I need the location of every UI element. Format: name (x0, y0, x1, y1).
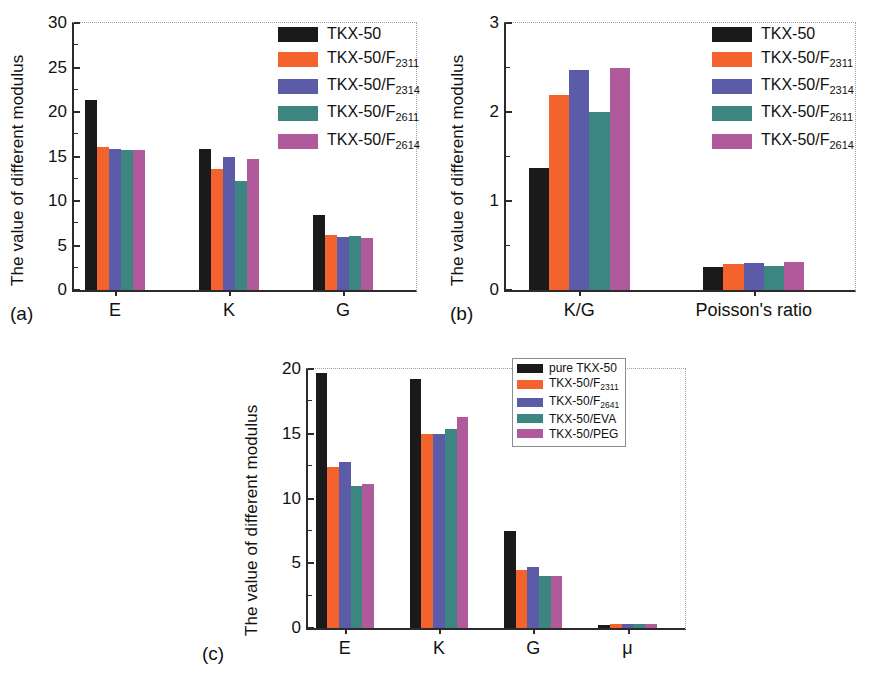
legend-item: TKX-50/F2614 (278, 132, 420, 151)
legend-item: TKX-50/EVA (517, 413, 619, 425)
legend-label: pure TKX-50 (549, 362, 617, 374)
legend-swatch (517, 364, 543, 373)
x-tick-label: K (433, 638, 445, 659)
bar (327, 467, 339, 628)
y-tick-label: 15 (282, 424, 308, 444)
bar (703, 267, 723, 290)
legend-swatch (712, 79, 752, 94)
legend-item: TKX-50/F2311 (712, 50, 854, 69)
legend-label: TKX-50/F2314 (761, 77, 854, 96)
y-tick-label: 0 (292, 618, 308, 638)
bar (569, 70, 589, 290)
bar (223, 157, 235, 290)
y-tick-label: 30 (48, 13, 74, 33)
bar (504, 531, 516, 628)
y-tick-mark (74, 156, 80, 158)
legend-item: TKX-50/F2314 (278, 77, 420, 96)
y-tick-label: 2 (490, 102, 506, 122)
panel-c: The value of different modulus (c) 05101… (150, 340, 730, 692)
y-tick-label: 10 (48, 191, 74, 211)
y-axis-label-a: The value of different modulus (8, 16, 28, 286)
bar (97, 147, 109, 290)
y-tick-mark-minor (308, 465, 312, 466)
x-tick-mark (754, 290, 756, 296)
legend-swatch (517, 429, 543, 438)
bar (362, 484, 374, 628)
bar (316, 373, 328, 628)
legend-label: TKX-50 (761, 26, 815, 42)
panel-label-c: (c) (202, 643, 224, 665)
x-tick-label: Poisson's ratio (696, 300, 813, 321)
y-tick-mark-minor (74, 267, 78, 268)
y-tick-label: 5 (58, 236, 74, 256)
y-tick-label: 3 (490, 13, 506, 33)
legend-swatch (278, 52, 318, 67)
bar (421, 434, 433, 628)
bar (325, 235, 337, 290)
legend-item: TKX-50 (712, 26, 854, 42)
y-tick-mark (506, 200, 512, 202)
bar (784, 262, 804, 290)
y-tick-mark-minor (74, 133, 78, 134)
bar (633, 624, 645, 628)
x-tick-mark (439, 628, 441, 634)
x-tick-mark (115, 290, 117, 296)
y-tick-mark (506, 289, 512, 291)
panel-a: The value of different modulus (a) 05101… (0, 0, 440, 340)
y-tick-label: 15 (48, 147, 74, 167)
y-tick-mark-minor (308, 530, 312, 531)
bar (351, 486, 363, 628)
legend-swatch (712, 27, 752, 42)
legend-c: pure TKX-50TKX-50/F2311TKX-50/F2641TKX-5… (512, 358, 626, 447)
legend-label: TKX-50/F2611 (761, 104, 853, 123)
bar (339, 462, 351, 628)
bar (349, 236, 361, 290)
x-tick-mark (579, 290, 581, 296)
bar (744, 263, 764, 290)
legend-swatch (278, 134, 318, 149)
legend-swatch (712, 134, 752, 149)
y-tick-mark (74, 67, 80, 69)
y-tick-mark-minor (308, 595, 312, 596)
x-tick-label: E (109, 300, 121, 321)
legend-label: TKX-50/F2311 (327, 50, 419, 69)
legend-label: TKX-50/F2314 (327, 77, 420, 96)
bar (313, 215, 325, 290)
legend-a: TKX-50TKX-50/F2311TKX-50/F2314TKX-50/F26… (278, 26, 420, 159)
x-tick-label: μ (622, 638, 632, 659)
y-axis-label-b: The value of different modulus (448, 16, 468, 286)
legend-label: TKX-50/PEG (549, 428, 618, 440)
legend-label: TKX-50/F2611 (327, 104, 419, 123)
legend-item: TKX-50/F2641 (517, 395, 619, 410)
legend-label: TKX-50/F2311 (549, 377, 619, 392)
bar (211, 169, 223, 290)
y-tick-mark (74, 289, 80, 291)
y-tick-mark (74, 245, 80, 247)
legend-swatch (712, 52, 752, 67)
bar (337, 237, 349, 290)
y-tick-mark-minor (74, 178, 78, 179)
bar (199, 149, 211, 290)
bar (235, 181, 247, 290)
x-tick-mark (345, 628, 347, 634)
legend-b: TKX-50TKX-50/F2311TKX-50/F2314TKX-50/F26… (712, 26, 854, 159)
legend-label: TKX-50/F2614 (327, 132, 420, 151)
y-tick-mark (506, 111, 512, 113)
panel-b: The value of different modulus (b) 0123K… (440, 0, 877, 340)
y-tick-label: 10 (282, 489, 308, 509)
y-tick-label: 5 (292, 553, 308, 573)
legend-label: TKX-50 (327, 26, 381, 42)
legend-swatch (517, 414, 543, 423)
bar (247, 159, 259, 290)
x-tick-label: K/G (564, 300, 595, 321)
plot-area-c: 05101520EKGμ (306, 368, 686, 630)
x-tick-label: G (336, 300, 350, 321)
y-tick-label: 0 (58, 280, 74, 300)
legend-swatch (517, 398, 543, 407)
legend-item: TKX-50/F2311 (278, 50, 420, 69)
bar (433, 434, 445, 628)
bar (551, 576, 563, 628)
bar (516, 570, 528, 628)
y-tick-label: 25 (48, 58, 74, 78)
legend-swatch (278, 27, 318, 42)
